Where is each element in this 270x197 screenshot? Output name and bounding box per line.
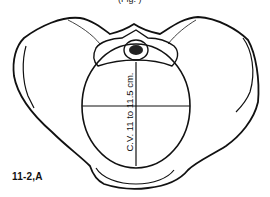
pubic-arch <box>96 168 174 184</box>
iliac-inner-left <box>23 46 34 108</box>
figure-label: 11-2,A <box>12 171 43 182</box>
spinal-canal-shading <box>129 45 143 55</box>
iliac-inner-right <box>236 38 253 112</box>
iliac-line-right <box>168 20 196 44</box>
pelvis-diagram <box>0 0 270 197</box>
conjugate-measurement-label: C.V. 11 to 11.5 cm. <box>124 72 135 151</box>
